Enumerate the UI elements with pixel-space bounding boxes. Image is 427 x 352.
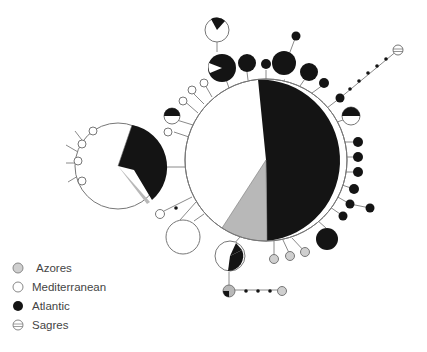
legend-item-azores: Azores xyxy=(10,258,106,277)
legend-item-sagres: Sagres xyxy=(10,315,106,334)
sagres-swatch-icon xyxy=(10,318,26,332)
main-haplotype xyxy=(185,79,347,241)
legend-label: Mediterranean xyxy=(32,281,106,293)
secondary-haplotype xyxy=(75,123,167,209)
legend-item-mediterranean: Mediterranean xyxy=(10,277,106,296)
legend-item-atlantic: Atlantic xyxy=(10,296,106,315)
atlantic-swatch-icon xyxy=(10,299,26,313)
sagres-node xyxy=(393,45,403,55)
mediterranean-swatch-icon xyxy=(10,280,26,294)
azores-swatch-icon xyxy=(10,261,26,275)
bottom-nodes xyxy=(215,241,310,297)
legend: Azores Mediterranean Atlantic Sagres xyxy=(10,258,106,334)
legend-label: Azores xyxy=(36,262,72,274)
legend-label: Atlantic xyxy=(32,300,70,312)
legend-label: Sagres xyxy=(32,319,68,331)
